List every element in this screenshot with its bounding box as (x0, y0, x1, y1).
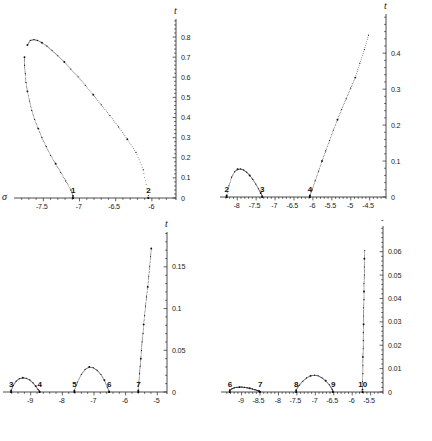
y-tick-label: 0.4 (391, 49, 400, 58)
y-tick-label: 0.1 (181, 173, 190, 182)
y-tick-label: 0.3 (391, 85, 400, 94)
x-tick-label: -7.5 (289, 396, 301, 405)
point-label: 4 (308, 185, 312, 194)
point-label: 1 (71, 186, 75, 195)
x-tick-label: -7.5 (36, 202, 48, 211)
x-tick-label: -6 (148, 202, 154, 211)
series-arch-3-4 (10, 377, 40, 392)
y-tick-label: 0.3 (181, 133, 190, 142)
y-tick-label: 0 (181, 194, 185, 203)
x-tick-label: -9 (27, 396, 33, 405)
point-label: 4 (37, 380, 41, 389)
x-tick-label: -6.5 (287, 201, 299, 210)
y-tick-label: 0.04 (388, 294, 401, 303)
x-tick-label: -8 (59, 396, 65, 405)
y-tick-label: 0 (391, 193, 395, 202)
y-tick-label: 0.2 (181, 153, 190, 162)
y-tick-label: 0.4 (181, 113, 190, 122)
point-label: 2 (225, 185, 229, 194)
point-label: 5 (72, 380, 76, 389)
y-tick-label: 0.02 (388, 341, 401, 350)
series-flat-cluster-6-7 (229, 386, 261, 392)
x-tick-label: -6 (122, 396, 128, 405)
y-tick-label: 0.03 (388, 317, 401, 326)
x-tick-label: -6.5 (108, 202, 120, 211)
x-tick-label: -6.5 (326, 396, 338, 405)
point-label: 10 (358, 380, 367, 389)
y-tick-label: 0.06 (388, 247, 401, 256)
y-tick-label: 0.1 (391, 157, 400, 166)
y-axis-label-t: t (165, 220, 168, 229)
x-tick-label: -8.5 (253, 396, 265, 405)
x-tick-label: -6 (348, 396, 354, 405)
y-tick-label: 0 (172, 388, 176, 397)
y-axis-label-t: t (381, 220, 384, 223)
x-tick-label: -5 (347, 201, 353, 210)
x-tick-label: -6 (309, 201, 315, 210)
y-tick-label: 0.7 (181, 53, 190, 62)
point-label: 2 (146, 186, 150, 195)
x-tick-label: -5.5 (324, 201, 336, 210)
x-tick-label: -7 (76, 202, 82, 211)
x-tick-label: -7 (271, 201, 277, 210)
series-arch-8-9 (295, 375, 333, 392)
x-tick-label: -9 (238, 396, 244, 405)
x-axis-label-sigma: σ (2, 191, 7, 202)
y-axis-label-t: t (384, 0, 387, 11)
x-tick-label: -7.5 (249, 201, 261, 210)
y-axis-label-t: t (174, 5, 177, 16)
y-tick-label: 0.05 (172, 346, 185, 355)
point-label: 9 (331, 380, 335, 389)
y-tick-label: 0.01 (388, 364, 401, 373)
y-tick-label: 0.6 (181, 73, 190, 82)
x-tick-label: -7 (90, 396, 96, 405)
point-label: 7 (258, 380, 262, 389)
x-tick-label: -5 (154, 396, 160, 405)
x-tick-label: -4.5 (362, 201, 374, 210)
point-label: 6 (228, 380, 232, 389)
chart-panel-4: σt-9-8.5-8-7.5-7-6.5-6-5.500.010.020.030… (216, 220, 432, 440)
x-tick-label: -8 (234, 201, 240, 210)
chart-panel-2: σt-8-7.5-7-6.5-6-5.5-5-4.500.10.20.30.42… (216, 0, 432, 220)
point-label: 8 (294, 380, 298, 389)
chart-panel-1: σt-7.5-7-6.5-600.10.20.30.40.50.60.70.81… (0, 0, 216, 220)
y-tick-label: 0.8 (181, 33, 190, 42)
y-tick-label: 0.2 (391, 121, 400, 130)
series-lower-branch (24, 56, 74, 197)
series-vertical-branch-from-10 (362, 250, 366, 391)
y-tick-label: 0.5 (181, 93, 190, 102)
y-tick-label: 0.15 (172, 262, 185, 271)
chart-panel-3: σt-9-8-7-6-500.050.10.1534567 (0, 220, 216, 440)
x-tick-label: -5.5 (363, 396, 375, 405)
series-arch-2-3 (226, 168, 263, 196)
series-rising-branch-from-4 (309, 35, 369, 197)
plot-canvas-3 (0, 220, 216, 440)
y-tick-label: 0 (388, 388, 392, 397)
point-label: 7 (136, 380, 140, 389)
y-tick-label: 0.1 (172, 304, 181, 313)
figure-grid: σt-7.5-7-6.5-600.10.20.30.40.50.60.70.81… (0, 0, 432, 441)
point-label: 6 (107, 380, 111, 389)
series-upper-branch (26, 39, 148, 196)
plot-canvas-2 (216, 0, 432, 220)
x-tick-label: -8 (275, 396, 281, 405)
point-label: 3 (9, 380, 13, 389)
series-steep-branch-from-7 (137, 248, 152, 392)
x-tick-label: -7 (312, 396, 318, 405)
series-arch-5-6 (73, 366, 109, 392)
point-label: 3 (260, 185, 264, 194)
y-tick-label: 0.05 (388, 271, 401, 280)
